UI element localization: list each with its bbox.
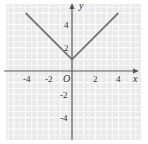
x-tick-label: 4: [116, 74, 121, 84]
y-tick-label: 2: [64, 43, 69, 53]
x-axis-label: x: [132, 73, 138, 84]
origin-label: O: [63, 73, 70, 84]
x-tick-label: 2: [93, 74, 98, 84]
y-axis-label: y: [78, 0, 84, 11]
y-tick-label: -4: [60, 113, 68, 123]
x-tick-label: -2: [45, 74, 53, 84]
coordinate-plane: y x O -4 -2 2 4 4 2 -2 -4: [0, 0, 148, 144]
graph-canvas: y x O -4 -2 2 4 4 2 -2 -4: [0, 0, 148, 144]
y-tick-label: -2: [60, 90, 68, 100]
y-tick-label: 4: [64, 20, 69, 30]
x-tick-label: -4: [23, 74, 31, 84]
